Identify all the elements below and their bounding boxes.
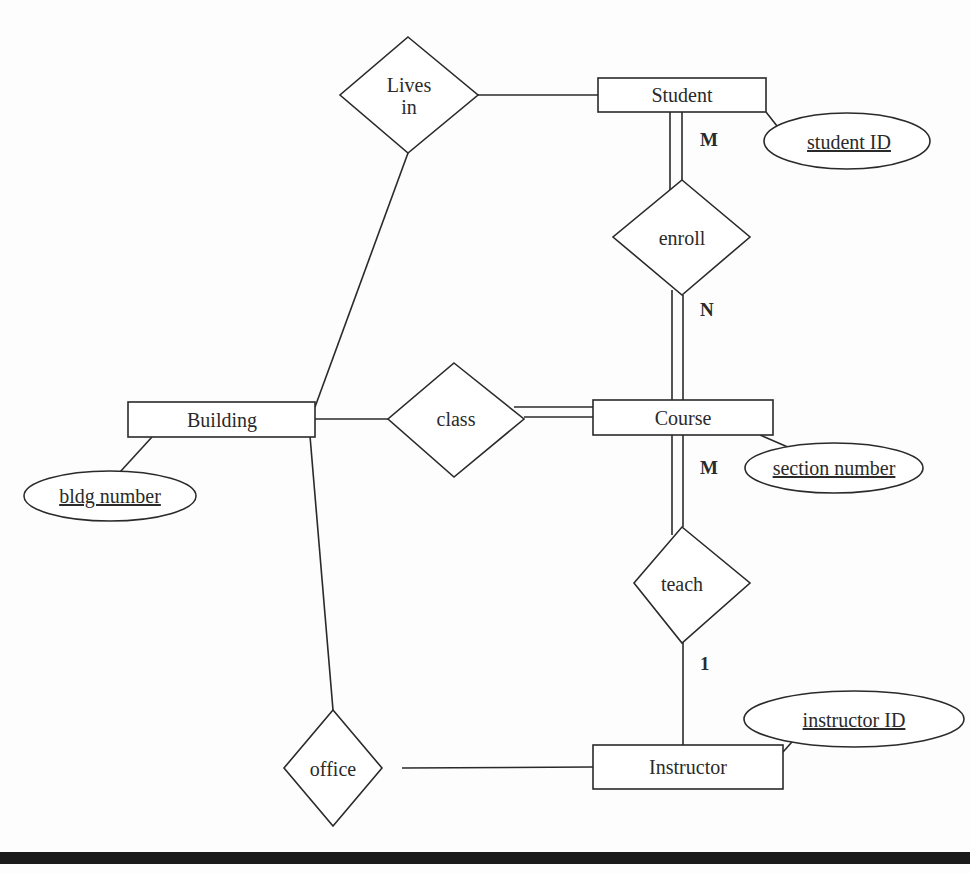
- edge-office-instructor: [402, 767, 593, 768]
- cardinality-teach-instructor: 1: [700, 653, 710, 674]
- page-bottom-rule: [0, 852, 970, 864]
- entity-instructor: Instructor: [593, 745, 783, 789]
- attribute-bldg-number: bldg number: [24, 471, 196, 521]
- relationship-teach: teach: [634, 527, 750, 643]
- edge-student-studentid: [766, 112, 777, 126]
- entity-student: Student: [598, 78, 766, 112]
- relationship-lives-in-label-2: in: [401, 96, 417, 118]
- relationship-class-label: class: [437, 408, 476, 430]
- attribute-student-id-label: student ID: [807, 131, 891, 153]
- edge-building-office: [310, 436, 333, 710]
- relationship-class: class: [388, 363, 524, 477]
- relationship-lives-in-label-1: Lives: [387, 74, 432, 96]
- edge-course-sectionnumber: [760, 435, 790, 448]
- attribute-bldg-number-label: bldg number: [59, 485, 161, 508]
- entity-student-label: Student: [651, 84, 713, 106]
- relationship-lives-in: Lives in: [340, 37, 478, 153]
- er-diagram: Lives in enroll class teach office Stude…: [0, 0, 970, 873]
- cardinality-student-enroll: M: [700, 129, 718, 150]
- edge-building-bldgnumber: [120, 437, 152, 472]
- relationship-enroll: enroll: [613, 180, 750, 295]
- entity-building: Building: [128, 402, 315, 437]
- attribute-section-number-label: section number: [773, 457, 896, 479]
- cardinality-course-teach: M: [700, 457, 718, 478]
- entity-course: Course: [593, 400, 773, 435]
- relationship-office-label: office: [310, 758, 356, 780]
- attribute-section-number: section number: [745, 443, 923, 493]
- entity-course-label: Course: [655, 407, 712, 429]
- relationship-teach-label: teach: [661, 573, 703, 595]
- attribute-instructor-id: instructor ID: [744, 691, 964, 747]
- edge-livesin-building: [315, 153, 408, 407]
- relationship-office: office: [284, 710, 382, 826]
- cardinality-enroll-course: N: [700, 299, 714, 320]
- entity-instructor-label: Instructor: [649, 756, 727, 778]
- relationship-enroll-label: enroll: [659, 227, 706, 249]
- entity-building-label: Building: [187, 409, 257, 432]
- attribute-instructor-id-label: instructor ID: [803, 709, 906, 731]
- attribute-student-id: student ID: [764, 113, 930, 169]
